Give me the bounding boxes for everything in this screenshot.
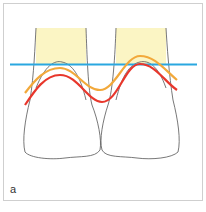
left-root-fill xyxy=(36,28,86,64)
teeth-diagram xyxy=(0,0,206,212)
right-root-fill xyxy=(116,28,166,64)
panel-label: a xyxy=(10,183,16,195)
